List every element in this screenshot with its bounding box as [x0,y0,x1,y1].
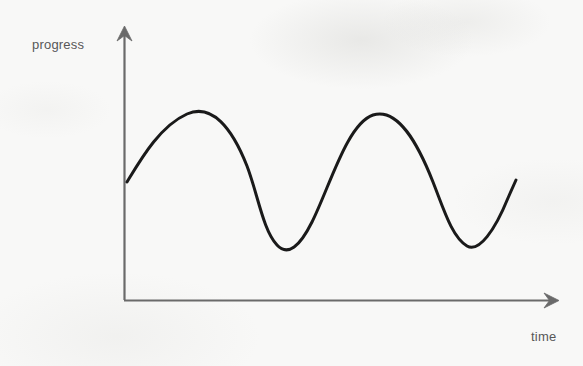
plot-canvas [0,0,583,366]
progress-curve [127,111,516,249]
x-axis-label: time [531,330,556,343]
y-axis-label: progress [32,38,84,51]
y-axis [117,26,132,300]
x-axis [124,293,559,308]
progress-over-time-figure: progress time [0,0,583,366]
